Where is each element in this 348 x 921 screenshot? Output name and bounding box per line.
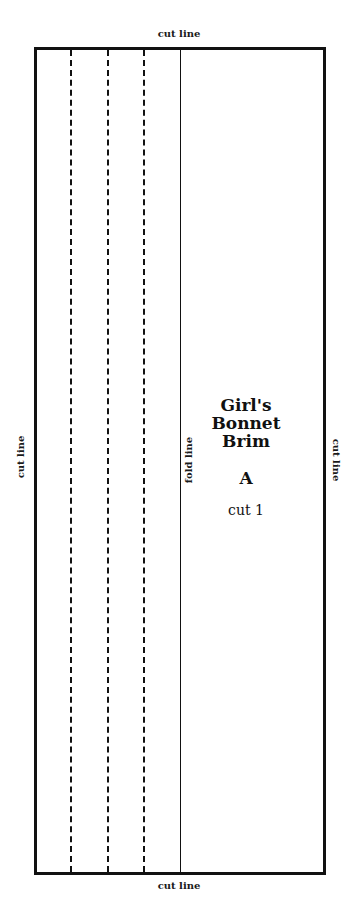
left-cut-line-label: cut line <box>15 436 26 479</box>
bottom-cut-line-label: cut line <box>0 880 348 891</box>
piece-letter: A <box>200 468 292 488</box>
pattern-title-block: Girl's Bonnet Brim A cut 1 <box>200 396 292 518</box>
fold-line <box>180 50 181 872</box>
pattern-title-line-2: Bonnet <box>200 414 292 432</box>
seam-dashed-line-2 <box>107 50 109 872</box>
pattern-title-line-1: Girl's <box>200 396 292 414</box>
seam-dashed-line-3 <box>143 50 145 872</box>
cut-instruction: cut 1 <box>200 502 292 518</box>
seam-dashed-line-1 <box>70 50 72 872</box>
pattern-title-line-3: Brim <box>200 432 292 450</box>
top-cut-line-label: cut line <box>0 28 348 39</box>
fold-line-label: fold line <box>183 437 194 483</box>
right-cut-line-label: cut line <box>331 439 342 482</box>
